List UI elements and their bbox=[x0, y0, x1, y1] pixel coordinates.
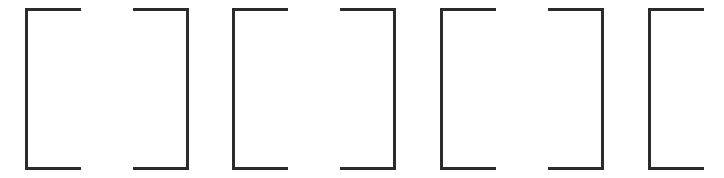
bracket-row-canvas bbox=[0, 0, 724, 178]
glyph-right-bracket-6 bbox=[548, 8, 604, 170]
glyph-left-bracket-1 bbox=[25, 8, 81, 170]
glyph-left-bracket-7 bbox=[648, 8, 704, 170]
glyph-left-bracket-5 bbox=[440, 8, 496, 170]
glyph-right-bracket-2 bbox=[133, 8, 189, 170]
glyph-right-bracket-4 bbox=[340, 8, 396, 170]
glyph-left-bracket-3 bbox=[232, 8, 288, 170]
